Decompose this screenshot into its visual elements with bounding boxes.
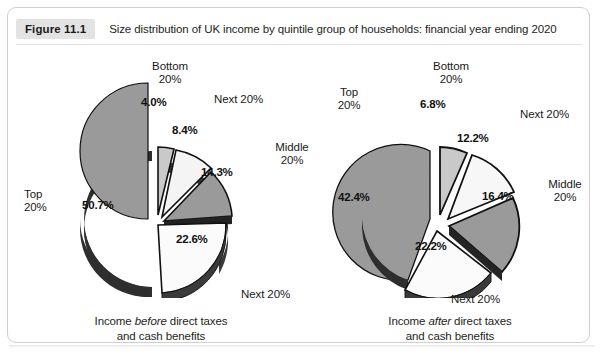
caption-before-post: direct taxes (167, 315, 228, 327)
legend-label-bottom-20-before-line2: 20% (159, 73, 182, 85)
figure-drop-shadow (9, 345, 594, 348)
value-label-next-20-upper-before: 22.6% (176, 233, 208, 245)
pie-chart-before: 4.0% 8.4% 14.3% 22.6% 50.7% Bottom 20% N… (16, 48, 306, 343)
value-label-bottom-20-before: 4.0% (141, 96, 166, 108)
legend-label-top-20-before: Top 20% (24, 188, 47, 214)
header-divider (16, 44, 582, 45)
panel-caption-after: Income after direct taxes and cash benef… (305, 314, 595, 344)
legend-label-next-20-lower-before-line1: Next 20% (214, 93, 263, 105)
value-label-next-20-upper-after: 22.2% (415, 240, 447, 252)
legend-label-bottom-20-before-line1: Bottom (152, 60, 188, 72)
legend-label-middle-20-before-line1: Middle (275, 141, 308, 153)
figure-caption-text: Size distribution of UK income by quinti… (109, 23, 556, 35)
caption-after-em: after (429, 315, 452, 327)
figure-frame: Figure 11.1 Size distribution of UK inco… (7, 7, 590, 343)
legend-label-middle-20-after-line1: Middle (548, 178, 581, 190)
legend-label-next-20-lower-after: Next 20% (520, 108, 569, 121)
legend-label-bottom-20-before: Bottom 20% (134, 60, 206, 86)
legend-label-bottom-20-after: Bottom 20% (415, 60, 487, 86)
caption-before-pre: Income (95, 315, 135, 327)
value-label-top-20-after: 42.4% (338, 191, 370, 203)
rim-top-20-before (80, 219, 148, 297)
panel-caption-before: Income before direct taxes and cash bene… (16, 314, 306, 344)
legend-label-bottom-20-after-line1: Bottom (433, 60, 469, 72)
legend-label-top-20-before-line2: 20% (24, 201, 47, 213)
caption-after-pre: Income (388, 315, 428, 327)
value-label-next-20-lower-before: 8.4% (172, 124, 197, 136)
value-label-top-20-before: 50.7% (82, 199, 114, 211)
legend-label-middle-20-after: Middle 20% (537, 178, 593, 204)
legend-label-top-20-before-line1: Top (24, 188, 42, 200)
legend-label-middle-20-after-line2: 20% (554, 191, 577, 203)
legend-label-top-20-after-line1: Top (340, 86, 358, 98)
legend-label-next-20-lower-before: Next 20% (214, 93, 263, 106)
value-label-bottom-20-after: 6.8% (420, 98, 445, 110)
legend-label-next-20-upper-before: Next 20% (241, 288, 290, 301)
figure-number-badge: Figure 11.1 (16, 19, 95, 39)
legend-label-top-20-after: Top 20% (321, 86, 377, 112)
legend-label-next-20-upper-before-line1: Next 20% (241, 288, 290, 300)
value-label-next-20-lower-after: 12.2% (457, 132, 489, 144)
caption-before-em: before (135, 315, 167, 327)
value-label-middle-20-before: 14.3% (201, 166, 233, 178)
caption-before-line2: and cash benefits (117, 330, 205, 342)
legend-label-middle-20-before-line2: 20% (281, 154, 304, 166)
pie-chart-after: 6.8% 12.2% 16.4% 22.2% 42.4% Bottom 20% … (305, 48, 595, 343)
legend-label-bottom-20-after-line2: 20% (440, 73, 463, 85)
slice-top-20-after (333, 144, 430, 280)
caption-after-line2: and cash benefits (406, 330, 494, 342)
legend-label-top-20-after-line2: 20% (338, 99, 361, 111)
value-label-middle-20-after: 16.4% (482, 190, 514, 202)
legend-label-next-20-lower-after-line1: Next 20% (520, 108, 569, 120)
figure-header: Figure 11.1 Size distribution of UK inco… (16, 16, 582, 41)
caption-after-post: direct taxes (451, 315, 512, 327)
legend-label-next-20-upper-after: Next 20% (451, 293, 500, 306)
legend-label-next-20-upper-after-line1: Next 20% (451, 293, 500, 305)
